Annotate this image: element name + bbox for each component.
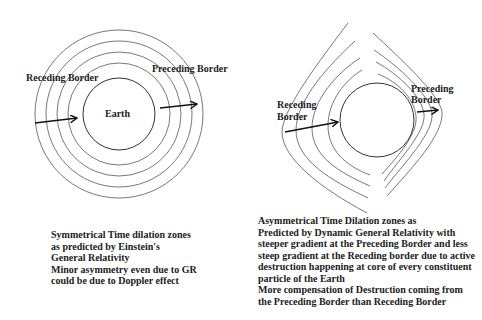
caption-line: destruction happening at core of every c… — [258, 261, 475, 273]
caption-line: Asymmetrical Time Dilation zones as — [258, 215, 475, 227]
doppler-note-line: Minor asymmetry even due to GR — [51, 264, 197, 276]
caption-line: particle of the Earth — [258, 273, 475, 285]
caption-line: Predicted by Dynamic General Relativity … — [258, 227, 475, 239]
preceding-arrow — [417, 110, 438, 112]
receding-border-label: Receding Border — [26, 72, 99, 83]
caption-line: as predicted by Einstein's — [51, 241, 197, 253]
symmetrical-diagram: Earth Receding Border Preceding Border — [26, 30, 228, 198]
receding-arrow — [35, 118, 77, 123]
asymmetrical-diagram: Receding Border Preceding Border — [277, 23, 454, 213]
asymmetrical-caption: Asymmetrical Time Dilation zones as Pred… — [258, 215, 475, 307]
caption-line: More compensation of Destruction coming … — [258, 284, 475, 296]
caption-line: Symmetrical Time dilation zones — [51, 229, 197, 241]
caption-line: the Preceding Border than Receding Borde… — [258, 296, 475, 308]
doppler-note-line: could be due to Doppler effect — [51, 275, 197, 287]
preceding-border-label-line2: Border — [411, 94, 442, 105]
earth-label: Earth — [105, 108, 130, 119]
receding-arrow — [285, 122, 338, 132]
caption-line: steep gradient at the Receding border du… — [258, 250, 475, 262]
receding-border-label: Receding — [277, 99, 316, 110]
preceding-border-label: Preceding — [411, 83, 454, 94]
caption-line: steeper gradient at the Preceding Border… — [258, 238, 475, 250]
earth-circle — [340, 83, 414, 157]
receding-border-label-line2: Border — [277, 111, 308, 122]
symmetrical-caption: Symmetrical Time dilation zones as predi… — [51, 229, 197, 287]
caption-line: General Relativity — [51, 252, 197, 264]
preceding-border-label: Preceding Border — [152, 63, 228, 74]
